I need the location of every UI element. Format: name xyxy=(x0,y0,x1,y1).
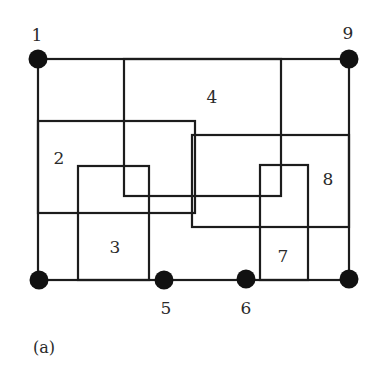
node-6 xyxy=(237,270,256,289)
region-label-4: 4 xyxy=(207,87,218,107)
node-1 xyxy=(29,50,48,69)
region-label-3: 3 xyxy=(110,237,121,257)
node-5 xyxy=(155,271,174,290)
node-bottom-right xyxy=(340,270,359,289)
region-label-8: 8 xyxy=(323,169,334,189)
node-9 xyxy=(340,50,359,69)
region-label-7: 7 xyxy=(278,246,289,266)
outer-frame xyxy=(38,59,349,280)
node-label-1: 1 xyxy=(32,25,43,45)
node-bottom-left xyxy=(30,271,49,290)
region-3-outline xyxy=(78,166,149,280)
node-label-6: 6 xyxy=(241,298,252,318)
node-label-5: 5 xyxy=(161,298,172,318)
node-label-9: 9 xyxy=(343,23,354,43)
figure-caption: (a) xyxy=(33,338,55,357)
floorplan-diagram: 2 3 4 7 8 1 9 5 6 (a) xyxy=(0,0,383,379)
region-4-outline xyxy=(124,59,281,196)
region-label-2: 2 xyxy=(54,148,65,168)
